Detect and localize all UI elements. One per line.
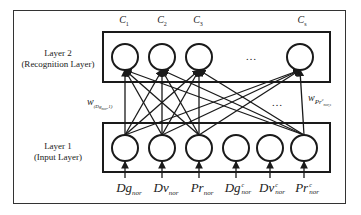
node-c2: [149, 44, 175, 70]
weight-label-left: w(Dgnor,1): [87, 96, 112, 111]
input-label-prc: Prcnor: [295, 180, 319, 196]
output-label-c3: C3: [193, 14, 203, 27]
output-label-cs: Cs: [297, 14, 306, 27]
node-pr: [186, 135, 212, 161]
input-label-dgc: Dgcnor: [225, 180, 252, 196]
node-dg: [112, 135, 138, 161]
output-label-c2: C2: [157, 14, 167, 27]
output-label-c1: C1: [119, 14, 129, 27]
layer2-title: Layer 2: [13, 48, 103, 59]
node-dv: [149, 135, 175, 161]
layer2-subtitle: (Recognition Layer): [13, 59, 103, 70]
input-arrows: [125, 162, 304, 178]
connection-ellipsis: …: [272, 96, 283, 108]
node-prc: [291, 135, 317, 161]
input-label-dvc: Dvcnor: [259, 180, 285, 196]
node-dgc: [223, 135, 249, 161]
weight-label-right: wPrcnor,s: [308, 92, 331, 107]
input-label-dg: Dgnor: [116, 180, 142, 197]
node-c3: [186, 44, 212, 70]
node-c1: [112, 44, 138, 70]
input-nodes: [112, 135, 317, 161]
input-label-dv: Dvnor: [154, 180, 179, 197]
output-nodes: [112, 44, 313, 70]
layer1-label: Layer 1 (Input Layer): [13, 141, 103, 163]
layer2-label: Layer 2 (Recognition Layer): [13, 48, 103, 70]
input-label-pr: Prnor: [191, 180, 214, 197]
layer1-subtitle: (Input Layer): [13, 152, 103, 163]
output-ellipsis: …: [246, 50, 257, 62]
node-dvc: [257, 135, 283, 161]
layer1-title: Layer 1: [13, 141, 103, 152]
node-cs: [287, 44, 313, 70]
